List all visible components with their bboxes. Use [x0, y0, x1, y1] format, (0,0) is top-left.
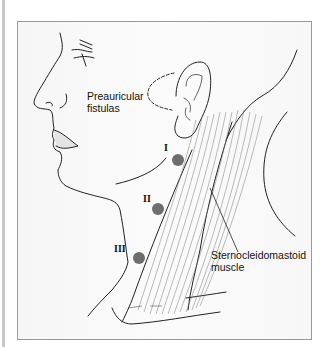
site-label-1: I	[164, 142, 168, 153]
scm-label: Sternocleidomastoid muscle	[211, 249, 306, 273]
site-label-2: II	[143, 193, 151, 204]
face-profile-outline	[34, 33, 128, 316]
preauricular-region	[148, 73, 174, 110]
fistula-site-dot-3	[133, 252, 145, 264]
shoulder-outline	[264, 112, 295, 236]
fistula-site-dot-2	[152, 203, 164, 215]
muscle-fibers	[128, 110, 262, 314]
eye-lines	[72, 40, 94, 66]
jaw-line	[116, 158, 166, 184]
site-label-3: III	[114, 243, 126, 254]
neck-back-outline	[226, 50, 297, 140]
nostril	[46, 94, 67, 108]
fistula-site-dot-1	[172, 154, 184, 166]
preauricular-label: Preauricular fistulas	[87, 90, 144, 114]
neck-anatomy-illustration	[0, 0, 323, 347]
lips	[54, 130, 78, 148]
scm-front-edge	[122, 150, 192, 322]
ear-inner	[184, 74, 202, 120]
